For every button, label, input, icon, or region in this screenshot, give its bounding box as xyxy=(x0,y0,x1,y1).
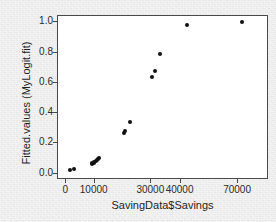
data-point xyxy=(158,52,162,56)
y-axis-tick-label: 1.0 xyxy=(39,16,53,26)
x-axis-tick xyxy=(94,179,95,183)
y-axis-tick-label: 0.0 xyxy=(39,168,53,178)
data-point xyxy=(123,129,127,133)
data-point xyxy=(72,167,76,171)
y-axis-tick xyxy=(53,21,57,22)
x-axis-tick xyxy=(65,179,66,183)
y-axis-tick xyxy=(53,112,57,113)
x-axis-tick-label: 0 xyxy=(63,185,69,195)
x-axis-tick-label: 40000 xyxy=(166,185,194,195)
plot-panel xyxy=(57,15,268,179)
chart-screenshot: 010000300004000070000 0.00.20.40.60.81.0… xyxy=(0,0,276,222)
y-axis-tick xyxy=(53,173,57,174)
y-axis-tick xyxy=(53,52,57,53)
y-axis-title: Fitted.values (MyLogit.fit) xyxy=(20,21,32,185)
x-axis-tick-label: 70000 xyxy=(223,185,251,195)
y-axis-tick-label: 0.2 xyxy=(39,137,53,147)
x-axis-tick-label: 30000 xyxy=(136,185,164,195)
data-point xyxy=(150,75,154,79)
y-axis-tick xyxy=(53,82,57,83)
y-axis-tick-label: 0.6 xyxy=(39,77,53,87)
x-axis-tick xyxy=(180,179,181,183)
data-point xyxy=(128,120,132,124)
y-axis-tick-label: 0.4 xyxy=(39,107,53,117)
y-axis-tick-label: 0.8 xyxy=(39,47,53,57)
x-axis-tick xyxy=(150,179,151,183)
data-point xyxy=(153,69,157,73)
data-point xyxy=(240,20,244,24)
x-axis-tick xyxy=(237,179,238,183)
data-point xyxy=(185,23,189,27)
y-axis-tick xyxy=(53,142,57,143)
x-axis-title: SavingData$Savings xyxy=(57,199,268,211)
data-point xyxy=(97,156,101,160)
scatter-plot-area xyxy=(58,16,267,178)
x-axis-tick-label: 10000 xyxy=(80,185,108,195)
